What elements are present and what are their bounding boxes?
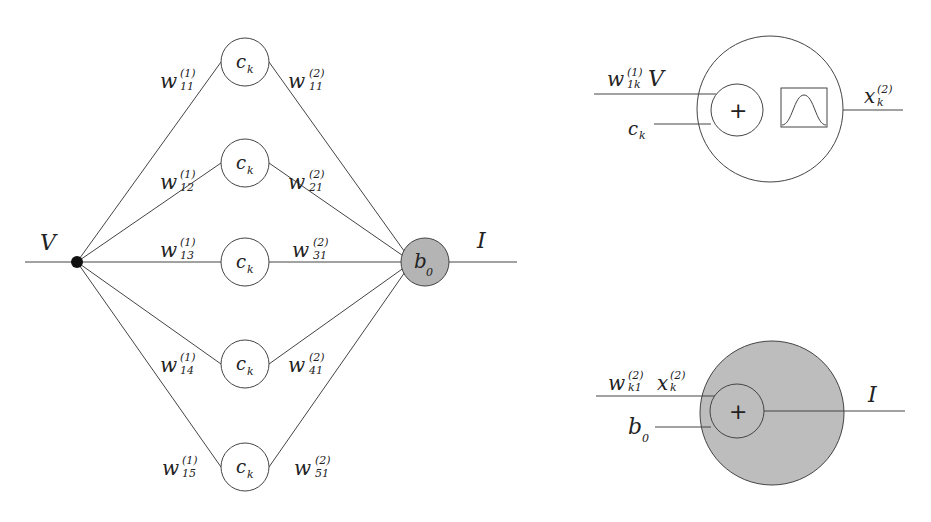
svg-text:(1): (1): [180, 168, 196, 181]
svg-text:0: 0: [426, 266, 433, 279]
svg-text:w: w: [288, 353, 305, 377]
svg-text:w: w: [160, 238, 177, 262]
svg-text:x: x: [657, 371, 668, 395]
svg-text:(2): (2): [315, 454, 331, 467]
svg-text:k: k: [877, 96, 884, 109]
svg-text:(1): (1): [180, 351, 196, 364]
svg-text:w: w: [160, 353, 177, 377]
svg-text:(1): (1): [180, 236, 196, 249]
svg-text:c: c: [236, 251, 246, 272]
svg-text:w: w: [162, 456, 179, 480]
svg-text:k: k: [247, 365, 254, 378]
svg-text:(2): (2): [309, 168, 325, 181]
hidden-node-4: ck: [221, 340, 269, 388]
svg-text:w: w: [160, 69, 177, 93]
svg-text:c: c: [236, 152, 246, 173]
svg-text:k: k: [247, 164, 254, 177]
svg-text:I: I: [867, 382, 878, 407]
svg-text:k: k: [639, 129, 646, 142]
svg-text:(1): (1): [180, 67, 196, 80]
svg-text:V: V: [648, 66, 666, 91]
svg-text:(2): (2): [309, 67, 325, 80]
svg-text:b: b: [414, 249, 427, 273]
weights-layer2: w(2)11 w(2)21 w(2)31 w(2)41 w(2)51: [288, 67, 331, 480]
svg-text:1k: 1k: [627, 78, 641, 91]
hidden-nodes: ck ck ck ck ck: [221, 38, 269, 491]
svg-text:12: 12: [180, 181, 194, 194]
svg-text:w: w: [294, 456, 311, 480]
svg-text:(2): (2): [877, 83, 893, 96]
svg-text:41: 41: [308, 364, 323, 377]
svg-text:15: 15: [182, 467, 196, 480]
svg-text:51: 51: [315, 467, 329, 480]
weights-layer1: w(1)11 w(1)12 w(1)13 w(1)14 w(1)15: [160, 67, 198, 480]
svg-text:w: w: [160, 170, 177, 194]
svg-text:k1: k1: [628, 381, 642, 394]
svg-text:21: 21: [308, 181, 323, 194]
svg-text:31: 31: [313, 249, 327, 262]
hidden-node-2: ck: [221, 139, 269, 187]
svg-text:c: c: [236, 51, 246, 72]
svg-text:w: w: [288, 69, 305, 93]
svg-text:11: 11: [309, 80, 323, 93]
input-label: V: [40, 230, 58, 255]
sum-icon: +: [729, 399, 747, 424]
svg-text:13: 13: [180, 249, 194, 262]
svg-text:k: k: [247, 63, 254, 76]
svg-text:(2): (2): [313, 236, 329, 249]
svg-text:k: k: [247, 263, 254, 276]
input-node: [71, 256, 83, 268]
sum-icon: +: [729, 98, 747, 123]
svg-text:c: c: [236, 353, 246, 374]
svg-text:w: w: [607, 67, 624, 91]
output-node: b 0: [401, 238, 449, 286]
hidden-node-3: ck: [221, 238, 269, 286]
svg-text:c: c: [236, 456, 246, 477]
svg-text:14: 14: [180, 364, 194, 377]
svg-text:(1): (1): [182, 454, 198, 467]
svg-text:c: c: [628, 118, 638, 139]
svg-text:k: k: [670, 381, 677, 394]
svg-text:0: 0: [642, 432, 649, 445]
hidden-node-1: ck: [221, 38, 269, 86]
svg-text:w: w: [288, 170, 305, 194]
hidden-neuron-detail: + w (1) 1k V c k x (2) k: [594, 36, 903, 182]
svg-text:(2): (2): [309, 351, 325, 364]
hidden-node-5: ck: [221, 443, 269, 491]
output-neuron-detail: + w (2) k1 x (2) k b 0 I: [596, 341, 905, 485]
output-label: I: [476, 228, 487, 253]
rbf-network-diagram: V ck ck ck ck ck w(1)11 w(1)12 w(1)13 w(…: [0, 0, 931, 522]
svg-text:x: x: [864, 84, 875, 108]
svg-text:w: w: [292, 238, 309, 262]
svg-text:k: k: [247, 468, 254, 481]
svg-text:w: w: [608, 371, 625, 395]
svg-text:11: 11: [180, 80, 194, 93]
svg-text:b: b: [628, 414, 642, 439]
